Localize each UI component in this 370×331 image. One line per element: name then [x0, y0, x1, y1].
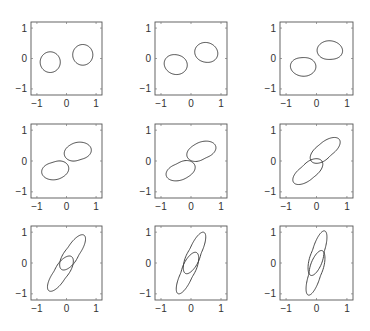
x-tick-label: 0: [64, 201, 70, 212]
axes-frame: [280, 124, 353, 198]
y-tick-label: 1: [145, 125, 151, 136]
y-tick-label: −1: [140, 288, 152, 299]
curve-group: [306, 231, 327, 295]
curve-group: [166, 141, 216, 181]
y-tick-label: −1: [140, 186, 152, 197]
y-tick-label: −1: [265, 186, 277, 197]
y-tick-label: 1: [21, 125, 27, 136]
x-tick-label: 1: [93, 98, 99, 109]
curve-lobe-2: [290, 58, 315, 77]
y-tick-label: −1: [16, 288, 28, 299]
subplot-panel-5: −101−101: [140, 124, 227, 212]
curve-lobe-1: [183, 232, 205, 274]
x-tick-label: 0: [314, 201, 320, 212]
x-tick-label: 1: [218, 98, 224, 109]
y-tick-label: −1: [140, 83, 152, 94]
y-tick-label: −1: [16, 83, 28, 94]
x-tick-label: 0: [314, 303, 320, 314]
y-tick-label: 0: [270, 53, 276, 64]
y-tick-label: 0: [270, 156, 276, 167]
y-tick-label: 1: [21, 23, 27, 34]
curve-group: [40, 45, 93, 73]
x-tick-label: −1: [31, 201, 43, 212]
subplot-panel-2: −101−101: [140, 22, 227, 109]
x-tick-label: −1: [280, 98, 292, 109]
y-tick-label: 0: [21, 156, 27, 167]
axes-frame: [31, 226, 102, 300]
subplot-grid-figure: −101−101−101−101−101−101−101−101−101−101…: [0, 0, 370, 331]
x-tick-label: 1: [218, 303, 224, 314]
subplot-panel-6: −101−101: [265, 124, 353, 212]
curve-lobe-2: [293, 159, 323, 185]
y-tick-label: 1: [270, 227, 276, 238]
axes-frame: [31, 22, 102, 95]
y-tick-label: 0: [145, 156, 151, 167]
subplot-panel-1: −101−101: [16, 22, 102, 109]
x-tick-label: −1: [155, 98, 167, 109]
y-tick-label: −1: [265, 288, 277, 299]
x-tick-label: 0: [188, 303, 194, 314]
curve-lobe-2: [176, 252, 198, 294]
curve-lobe-1: [310, 137, 340, 163]
y-tick-label: 0: [21, 53, 27, 64]
curve-lobe-1: [317, 41, 342, 60]
x-tick-label: −1: [155, 303, 167, 314]
y-tick-label: 1: [21, 227, 27, 238]
x-tick-label: 0: [188, 201, 194, 212]
x-tick-label: 1: [218, 201, 224, 212]
subplot-panel-4: −101−101: [16, 124, 102, 212]
y-tick-label: 0: [21, 258, 27, 269]
curve-group: [290, 41, 342, 77]
curve-group: [164, 42, 218, 74]
x-tick-label: 0: [188, 98, 194, 109]
curve-group: [293, 137, 340, 184]
y-tick-label: 1: [145, 227, 151, 238]
subplot-panel-7: −101−101: [16, 226, 102, 314]
axes-frame: [280, 226, 353, 300]
subplot-panel-3: −101−101: [265, 22, 353, 109]
curve-lobe-2: [40, 52, 60, 73]
y-tick-label: 1: [145, 23, 151, 34]
x-tick-label: 0: [314, 98, 320, 109]
curve-lobe-2: [166, 161, 195, 181]
x-tick-label: −1: [280, 303, 292, 314]
axes-frame: [280, 22, 353, 95]
y-tick-label: 0: [270, 258, 276, 269]
y-tick-label: −1: [265, 83, 277, 94]
curve-group: [176, 232, 206, 294]
y-tick-label: 1: [270, 125, 276, 136]
curve-lobe-1: [73, 45, 93, 66]
curve-lobe-1: [195, 42, 218, 62]
x-tick-label: 1: [344, 201, 350, 212]
x-tick-label: 0: [64, 98, 70, 109]
curve-group: [42, 142, 92, 180]
x-tick-label: −1: [280, 201, 292, 212]
x-tick-label: 1: [93, 303, 99, 314]
curve-lobe-1: [187, 141, 216, 161]
y-tick-label: −1: [16, 186, 28, 197]
y-tick-label: 1: [270, 23, 276, 34]
y-tick-label: 0: [145, 258, 151, 269]
subplot-panel-8: −101−101: [140, 226, 227, 314]
curve-lobe-2: [42, 161, 69, 180]
x-tick-label: 0: [64, 303, 70, 314]
curve-lobe-2: [164, 55, 187, 75]
subplot-panel-9: −101−101: [265, 226, 353, 314]
x-tick-label: 1: [344, 98, 350, 109]
x-tick-label: 1: [93, 201, 99, 212]
axes-frame: [31, 124, 102, 198]
y-tick-label: 0: [145, 53, 151, 64]
x-tick-label: −1: [31, 303, 43, 314]
curve-lobe-1: [64, 142, 91, 161]
x-tick-label: −1: [155, 201, 167, 212]
curve-lobe-2: [47, 256, 73, 291]
x-tick-label: −1: [31, 98, 43, 109]
curve-group: [47, 235, 85, 292]
axes-frame: [155, 226, 227, 300]
x-tick-label: 1: [344, 303, 350, 314]
